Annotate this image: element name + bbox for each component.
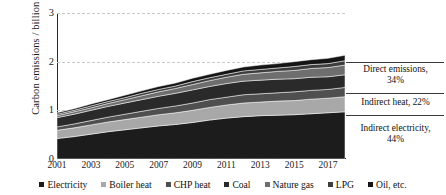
legend-label: LPG: [336, 179, 354, 190]
legend-swatch-icon: [166, 182, 171, 187]
y-tick-label: 1: [28, 105, 54, 116]
legend-label: Oil, etc.: [376, 179, 407, 190]
legend-label: Boiler heat: [109, 179, 151, 190]
annotation-direct-emissions-line2: 34%: [347, 75, 444, 86]
x-tick-label: 2007: [149, 160, 168, 170]
x-tick-label: 2011: [217, 160, 236, 170]
y-axis-ticks: 3 2 1 0: [24, 13, 54, 159]
legend-label: Nature gas: [273, 179, 314, 190]
annotation-rule-middle: [346, 93, 444, 94]
annotation-rule-bottom: [346, 115, 444, 116]
annotation-direct-emissions-line1: Direct emissions,: [347, 64, 444, 75]
legend-swatch-icon: [265, 182, 270, 187]
x-tick-label: 2015: [285, 160, 304, 170]
y-tick-label: 2: [28, 57, 54, 68]
x-tick-label: 2013: [251, 160, 270, 170]
chart-legend: ElectricityBoiler heatCHP heatCoalNature…: [0, 176, 446, 192]
legend-swatch-icon: [224, 182, 229, 187]
legend-label: CHP heat: [174, 179, 211, 190]
legend-item-lpg[interactable]: LPG: [328, 179, 354, 190]
legend-swatch-icon: [328, 182, 333, 187]
x-tick-label: 2003: [81, 160, 100, 170]
annotation-indirect-heat-line1: Indirect heat, 22%: [347, 97, 444, 108]
legend-swatch-icon: [368, 182, 373, 187]
annotation-rule-top: [346, 62, 444, 63]
x-tick-label: 2005: [115, 160, 134, 170]
annotation-indirect-electricity-line2: 44%: [347, 134, 444, 145]
legend-item-oil-etc[interactable]: Oil, etc.: [368, 179, 407, 190]
y-tick-label: 3: [28, 8, 54, 19]
legend-swatch-icon: [101, 182, 106, 187]
legend-label: Coal: [232, 179, 250, 190]
annotation-indirect-electricity: Indirect electricity, 44%: [347, 123, 444, 145]
x-tick-label: 2001: [48, 160, 67, 170]
legend-label: Electricity: [47, 179, 87, 190]
x-tick-label: 2009: [183, 160, 202, 170]
legend-item-boiler-heat[interactable]: Boiler heat: [101, 179, 151, 190]
x-axis-ticks: 200120032005200720092011201320152017: [57, 160, 346, 174]
legend-item-coal[interactable]: Coal: [224, 179, 250, 190]
plot-area: [57, 13, 345, 159]
legend-item-nature-gas[interactable]: Nature gas: [265, 179, 314, 190]
stacked-area-series: [57, 13, 345, 159]
legend-item-chp-heat[interactable]: CHP heat: [166, 179, 211, 190]
annotation-direct-emissions: Direct emissions, 34%: [347, 64, 444, 86]
annotation-indirect-heat: Indirect heat, 22%: [347, 97, 444, 108]
chart-figure: Carbon emissions / billion CO2 3 2 1 0 2…: [0, 0, 446, 195]
legend-item-electricity[interactable]: Electricity: [39, 179, 87, 190]
x-tick-label: 2017: [319, 160, 338, 170]
legend-swatch-icon: [39, 182, 44, 187]
annotation-indirect-electricity-line1: Indirect electricity,: [347, 123, 444, 134]
